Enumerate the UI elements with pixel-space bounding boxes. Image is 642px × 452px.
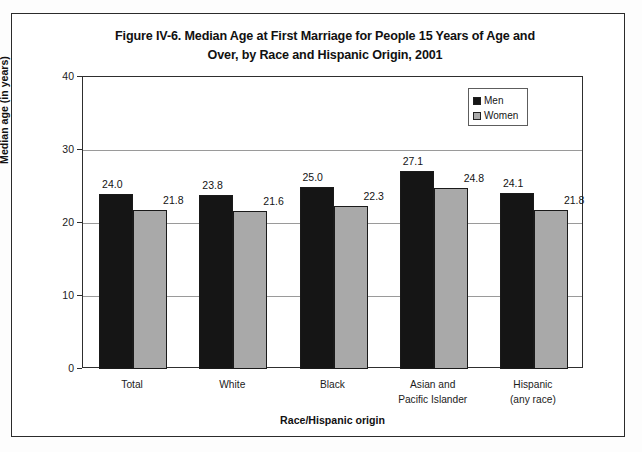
y-axis-tick-label: 0: [34, 363, 74, 373]
bar-value-label: 21.8: [163, 195, 183, 206]
y-axis-tick-label: 30: [34, 144, 74, 154]
x-axis-category-line: (any race): [483, 392, 583, 407]
bar-men-4: [500, 193, 534, 369]
x-axis-category-line: Hispanic: [483, 377, 583, 392]
bar-value-label: 24.0: [102, 179, 122, 190]
y-axis-title: Median age (in years): [0, 0, 10, 220]
x-axis-category-label: Asian andPacific Islander: [383, 377, 483, 407]
x-axis-category-label: Black: [282, 377, 382, 392]
bar-women-1: [233, 211, 267, 369]
x-axis-category-line: Total: [82, 377, 182, 392]
bar-women-0: [133, 210, 167, 369]
bar-value-label: 21.8: [564, 195, 584, 206]
legend-swatch-women-icon: [473, 112, 481, 120]
x-axis-title: Race/Hispanic origin: [82, 414, 583, 426]
x-axis-category-label: Hispanic(any race): [483, 377, 583, 407]
chart-title-line-2: Over, by Race and Hispanic Origin, 2001: [40, 46, 610, 65]
figure-container: Figure IV-6. Median Age at First Marriag…: [0, 0, 642, 452]
x-axis-category-line: Asian and: [383, 377, 483, 392]
bar-value-label: 27.1: [403, 156, 423, 167]
y-axis-tick-mark: [77, 368, 82, 369]
bar-value-label: 24.1: [503, 178, 523, 189]
bar-women-3: [434, 188, 468, 369]
x-axis-category-label: White: [182, 377, 282, 392]
chart-title: Figure IV-6. Median Age at First Marriag…: [40, 27, 610, 65]
y-axis-tick-label: 20: [34, 217, 74, 227]
y-axis-tick-label: 40: [34, 71, 74, 81]
bar-men-0: [99, 194, 133, 369]
legend: Men Women: [468, 88, 528, 126]
bar-women-2: [334, 206, 368, 369]
gridline: [83, 150, 582, 151]
legend-label-men: Men: [484, 96, 503, 106]
legend-swatch-men-icon: [473, 97, 481, 105]
bar-value-label: 25.0: [303, 172, 323, 183]
legend-label-women: Women: [484, 111, 518, 121]
x-axis-category-line: Pacific Islander: [383, 392, 483, 407]
chart-title-line-1: Figure IV-6. Median Age at First Marriag…: [40, 27, 610, 46]
x-axis-category-label: Total: [82, 377, 182, 392]
legend-item-women: Women: [473, 108, 527, 123]
y-axis-tick-label: 10: [34, 290, 74, 300]
bar-value-label: 23.8: [202, 180, 222, 191]
bar-value-label: 21.6: [263, 196, 283, 207]
x-axis-category-line: White: [182, 377, 282, 392]
bar-women-4: [534, 210, 568, 369]
bar-value-label: 22.3: [364, 191, 384, 202]
x-axis-category-line: Black: [282, 377, 382, 392]
legend-item-men: Men: [473, 93, 527, 108]
bar-value-label: 24.8: [464, 173, 484, 184]
bar-men-2: [300, 187, 334, 370]
bar-men-1: [199, 195, 233, 369]
bar-men-3: [400, 171, 434, 369]
